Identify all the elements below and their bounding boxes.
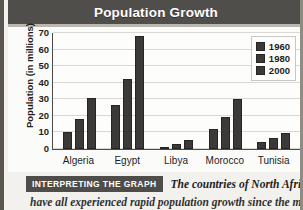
legend-item-label: 2000 [269, 65, 290, 76]
page-title: Population Growth [94, 5, 218, 20]
y-tick-label: 60 [38, 43, 49, 54]
bar [75, 119, 84, 149]
legend-swatch-icon [256, 66, 265, 75]
bar [63, 132, 72, 149]
x-tick-label: Tunisia [249, 155, 298, 166]
bar [111, 105, 120, 149]
interpreting-the-graph-badge: INTERPRETING THE GRAPH [26, 176, 163, 192]
x-tick-label: Libya [152, 155, 201, 166]
bar [172, 144, 181, 149]
bar [269, 138, 278, 149]
caption-block: INTERPRETING THE GRAPH The countries of … [8, 176, 303, 210]
y-axis-label: Population (in millions) [24, 11, 35, 141]
bar-group [201, 33, 250, 149]
bar [281, 133, 290, 149]
y-tick-label: 70 [38, 27, 49, 38]
legend-swatch-icon [256, 42, 265, 51]
legend-swatch-icon [256, 54, 265, 63]
y-tick-label: 0 [44, 143, 49, 154]
bar [123, 79, 132, 149]
x-tick-label: Algeria [54, 155, 103, 166]
y-tick-label: 30 [38, 93, 49, 104]
caption-text-line-1: The countries of North Africa [171, 178, 303, 190]
legend-item-label: 1960 [269, 41, 290, 52]
x-tick-label: Egypt [103, 155, 152, 166]
population-growth-figure: Population Growth Population (in million… [0, 0, 303, 210]
bar [233, 99, 242, 149]
chart-legend: 1960 1980 2000 [251, 36, 296, 81]
bar [209, 129, 218, 149]
caption-first-line: INTERPRETING THE GRAPH The countries of … [8, 176, 303, 192]
bar [135, 36, 144, 149]
y-tick-label: 10 [38, 126, 49, 137]
legend-item-label: 1980 [269, 53, 290, 64]
figure-title-bar: Population Growth [8, 0, 303, 24]
legend-item: 1960 [256, 41, 290, 52]
x-tick-label: Morocco [200, 155, 249, 166]
bar [160, 147, 169, 149]
bar-group [152, 33, 201, 149]
legend-item: 2000 [256, 65, 290, 76]
legend-item: 1980 [256, 53, 290, 64]
chart-container: Population (in millions) 010203040506070… [8, 27, 303, 172]
bar [184, 140, 193, 149]
bar-group [104, 33, 153, 149]
bar [87, 98, 96, 149]
y-tick-label: 40 [38, 76, 49, 87]
bar [221, 117, 230, 149]
caption-text-line-2: have all experienced rapid population gr… [8, 196, 303, 208]
y-tick-label: 20 [38, 109, 49, 120]
y-tick-label: 50 [38, 60, 49, 71]
bar [257, 142, 266, 149]
bar-group [55, 33, 104, 149]
x-axis-labels: AlgeriaEgyptLibyaMoroccoTunisia [52, 152, 300, 168]
